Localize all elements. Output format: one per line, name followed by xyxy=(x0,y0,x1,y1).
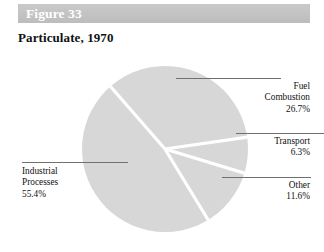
pie-slices xyxy=(82,66,248,232)
pie-chart-svg xyxy=(0,0,324,252)
pie-label-transport-line1: Transport xyxy=(274,136,310,147)
pie-label-fuel-combustion: Fuel Combustion 26.7% xyxy=(265,81,310,115)
pie-chart xyxy=(0,0,324,252)
pie-label-other: Other 11.6% xyxy=(286,180,310,203)
pie-label-transport: Transport 6.3% xyxy=(274,136,310,159)
pie-label-industrial-processes-line1: Industrial xyxy=(22,166,58,177)
pie-label-other-line1: Other xyxy=(286,180,310,191)
pie-label-fuel-combustion-line2: Combustion xyxy=(265,92,310,103)
pie-label-other-percent: 11.6% xyxy=(286,191,310,202)
pie-label-industrial-processes-line2: Processes xyxy=(22,177,58,188)
pie-label-industrial-processes-percent: 55.4% xyxy=(22,189,58,200)
pie-label-fuel-combustion-line1: Fuel xyxy=(265,81,310,92)
pie-label-transport-percent: 6.3% xyxy=(274,147,310,158)
pie-label-industrial-processes: Industrial Processes 55.4% xyxy=(22,166,58,200)
pie-label-fuel-combustion-percent: 26.7% xyxy=(265,104,310,115)
